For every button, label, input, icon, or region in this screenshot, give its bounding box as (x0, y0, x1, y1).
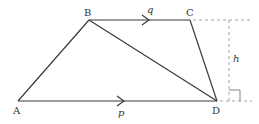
vector-label-p: p (118, 107, 125, 118)
edge-cd (190, 20, 217, 101)
edge-ab (18, 20, 89, 101)
vector-label-q: q (147, 4, 153, 15)
vertex-label-b: B (84, 7, 91, 18)
trapezium-diagram: A B C D q p h (0, 0, 259, 124)
vertex-label-c: C (186, 7, 194, 18)
height-label: h (233, 53, 239, 64)
vertex-label-d: D (212, 105, 220, 116)
vertex-label-a: A (12, 105, 21, 116)
diagonal-bd (89, 20, 217, 101)
right-angle-marker (229, 90, 240, 101)
